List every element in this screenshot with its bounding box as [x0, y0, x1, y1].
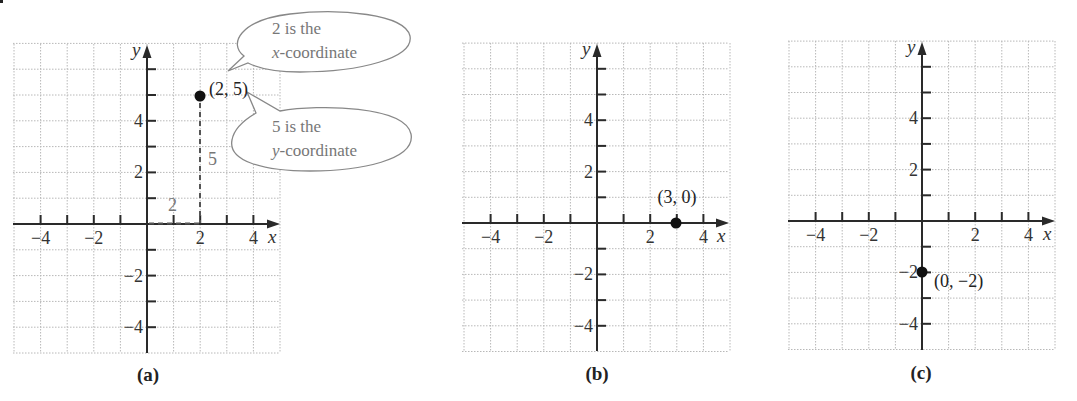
- x-guide-label: 2: [168, 195, 177, 215]
- x-tick-label: −4: [806, 225, 825, 245]
- x-tick-label: 4: [699, 227, 708, 247]
- x-tick-label: 4: [1024, 225, 1033, 245]
- callout-line-1: 2 is the: [272, 19, 321, 38]
- callout-line-2: x-coordinate: [271, 43, 357, 62]
- point-label: (2, 5): [209, 79, 248, 100]
- x-tick-label: −2: [534, 227, 553, 247]
- callout-line-1: 5 is the: [272, 117, 321, 136]
- y-tick-label: 4: [134, 111, 143, 131]
- plotted-point: [195, 91, 206, 102]
- x-axis-label: x: [1042, 223, 1052, 244]
- x-axis-label: x: [716, 225, 726, 246]
- panel-c: xy−4−22442−2−4 (0, −2) (c): [788, 36, 1055, 384]
- x-axis-label: x: [267, 226, 277, 247]
- y-tick-label: 4: [584, 110, 593, 130]
- axes: [788, 42, 1055, 350]
- x-tick-label: 2: [196, 228, 205, 248]
- y-axis-arrow-icon: [918, 42, 927, 55]
- panel-a: xy−4−22442−2−4 2 5 2 is the x-coordinate…: [13, 12, 411, 386]
- corner-artifact: [0, 0, 3, 3]
- y-axis-label: y: [580, 38, 591, 59]
- callout-line-2: y-coordinate: [270, 141, 357, 160]
- callout-x-coordinate: 2 is the x-coordinate: [228, 12, 410, 72]
- y-tick-label: 4: [909, 108, 918, 128]
- y-axis-label: y: [130, 39, 141, 60]
- y-tick-label: 2: [584, 162, 593, 182]
- panel-label: (b): [585, 363, 608, 385]
- y-tick-label: −4: [124, 317, 143, 337]
- y-tick-label: 2: [134, 162, 143, 182]
- plotted-point: [917, 267, 928, 278]
- plotted-point: [671, 218, 682, 229]
- tick-labels: xy−4−22442−2−4: [806, 36, 1052, 334]
- x-tick-label: 2: [646, 227, 655, 247]
- panel-b: xy−4−22442−2−4 (3, 0) (b): [462, 38, 730, 385]
- x-tick-label: −2: [859, 225, 878, 245]
- x-tick-label: 4: [249, 228, 258, 248]
- y-tick-label: −2: [899, 262, 918, 282]
- y-axis-arrow-icon: [143, 45, 152, 58]
- callout-y-coordinate: 5 is the y-coordinate: [232, 92, 412, 171]
- y-tick-label: 2: [909, 160, 918, 180]
- point-label: (3, 0): [658, 187, 697, 208]
- y-axis-label: y: [905, 36, 916, 57]
- x-tick-label: −4: [31, 228, 50, 248]
- y-tick-label: −4: [899, 314, 918, 334]
- y-guide-label: 5: [208, 149, 217, 169]
- panel-label: (a): [137, 364, 159, 386]
- y-axis-arrow-icon: [593, 44, 602, 57]
- y-tick-label: −2: [124, 266, 143, 286]
- x-tick-label: 2: [971, 225, 980, 245]
- panel-label: (c): [910, 362, 931, 384]
- x-tick-label: −2: [84, 228, 103, 248]
- coordinate-plane-figure: xy−4−22442−2−4 2 5 2 is the x-coordinate…: [0, 0, 1077, 401]
- point-label: (0, −2): [934, 271, 983, 292]
- x-tick-label: −4: [481, 227, 500, 247]
- y-tick-label: −2: [574, 264, 593, 284]
- y-tick-label: −4: [574, 316, 593, 336]
